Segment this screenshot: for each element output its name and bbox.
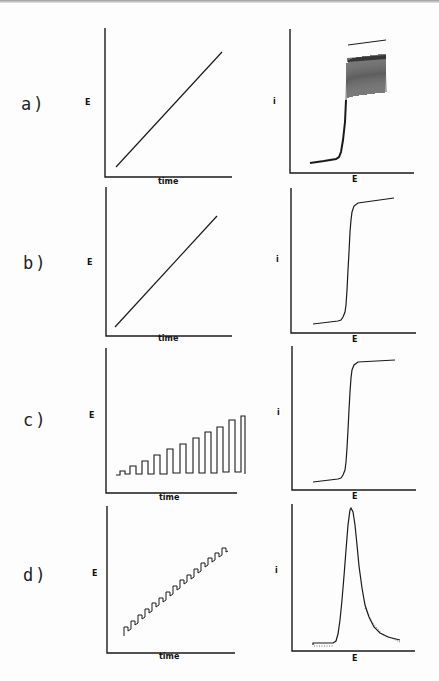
figure-canvas bbox=[0, 0, 439, 681]
axes-c-right bbox=[292, 346, 416, 490]
axes-b-right bbox=[291, 188, 416, 333]
axes-d-left bbox=[107, 506, 235, 653]
trace-a-left bbox=[116, 52, 222, 167]
trace-a-right bbox=[310, 100, 346, 163]
trace-b-left bbox=[115, 216, 217, 327]
axes-a-right bbox=[290, 29, 414, 173]
axes-b-left bbox=[106, 187, 232, 336]
oscillation-band-a-right bbox=[346, 40, 386, 100]
trace-d-right-ripple bbox=[314, 608, 400, 646]
trace-d-left bbox=[124, 548, 228, 636]
trace-d-right bbox=[313, 508, 400, 645]
axes-a-left bbox=[105, 28, 232, 177]
trace-c-left bbox=[116, 416, 245, 475]
axes-d-right bbox=[292, 504, 415, 651]
trace-c-right bbox=[313, 360, 395, 482]
trace-b-right bbox=[313, 198, 394, 324]
